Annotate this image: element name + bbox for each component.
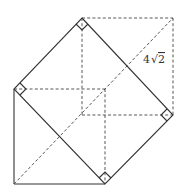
cuboid-diagram: 4√2 [0, 0, 185, 194]
length-label: 4√2 [143, 53, 165, 66]
diagonal [14, 18, 173, 184]
